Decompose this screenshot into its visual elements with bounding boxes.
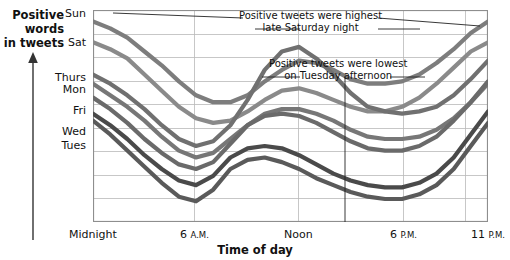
- annotation-highest: Positive tweets were highestlate Saturda…: [239, 10, 382, 33]
- day-label-sat: Sat: [26, 37, 86, 49]
- day-label-mon: Mon: [26, 84, 86, 96]
- y-axis-title-line-2: words: [2, 22, 64, 36]
- annotation-lowest-line-2: on Tuesday afternoon: [269, 70, 407, 82]
- x-tick-6: 6 A.M.: [180, 228, 209, 241]
- chart-figure: Positive words in tweets SunSatThursMonF…: [0, 0, 510, 260]
- x-tick-6: 6 P.M.: [390, 228, 417, 241]
- x-axis-title: Time of day: [0, 243, 510, 257]
- day-label-sun: Sun: [26, 8, 86, 20]
- annotation-highest-line-2: late Saturday night: [239, 22, 382, 34]
- day-label-wed: Wed: [26, 126, 86, 138]
- annotation-highest-line-1: Positive tweets were highest: [239, 10, 382, 22]
- line-chart-svg: [93, 10, 488, 222]
- day-label-tues: Tues: [26, 140, 86, 152]
- day-label-fri: Fri: [26, 105, 86, 117]
- x-tick-11: 11 P.M.: [471, 228, 505, 241]
- annotation-lowest: Positive tweets were loweston Tuesday af…: [269, 58, 407, 81]
- plot-area: [93, 10, 488, 222]
- x-tick-noon: Noon: [284, 228, 313, 241]
- annotation-lowest-line-1: Positive tweets were lowest: [269, 58, 407, 70]
- x-tick-midnight: Midnight: [69, 228, 117, 241]
